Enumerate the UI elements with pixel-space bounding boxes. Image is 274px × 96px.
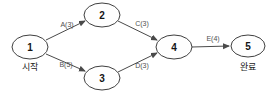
edge-A-label: A(3) bbox=[60, 21, 73, 29]
node-3-label: 3 bbox=[99, 73, 105, 84]
edge-C-label: C(3) bbox=[135, 20, 149, 28]
edge-E-line bbox=[192, 46, 229, 47]
edge-E-label: E(4) bbox=[206, 35, 219, 43]
edge-D-label: D(3) bbox=[135, 62, 149, 70]
node-1-sublabel: 시작 bbox=[22, 62, 38, 72]
edge-B-label: B(5) bbox=[59, 61, 72, 69]
diagram-canvas: A(3)B(5)C(3)D(3)E(4)1시작2345완료 bbox=[0, 0, 274, 96]
node-5-label: 5 bbox=[245, 41, 251, 52]
node-1-label: 1 bbox=[27, 42, 33, 53]
activity-network-diagram: A(3)B(5)C(3)D(3)E(4)1시작2345완료 bbox=[0, 0, 274, 96]
node-2-label: 2 bbox=[99, 10, 105, 21]
node-5-sublabel: 완료 bbox=[240, 62, 256, 72]
node-4-label: 4 bbox=[171, 42, 177, 53]
